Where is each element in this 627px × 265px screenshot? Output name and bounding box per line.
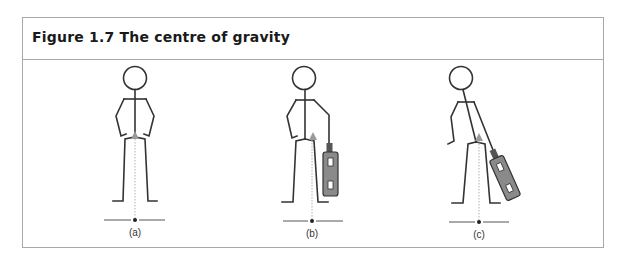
centre-of-gravity-illustration: [0, 0, 627, 265]
cog-marker-icon: [475, 133, 483, 141]
panel-c-stick-figure: [448, 67, 500, 204]
right-arm: [314, 100, 329, 143]
right-arm: [144, 99, 154, 136]
head: [124, 67, 147, 90]
left-leg: [113, 137, 135, 201]
cog-marker-icon: [309, 132, 317, 140]
cog-marker-icon: [131, 131, 139, 139]
panel-b-case: [323, 143, 338, 196]
panel-c-case: [486, 147, 521, 202]
panel-label-c: (c): [473, 229, 485, 240]
right-leg: [135, 137, 157, 201]
cog-point: [477, 220, 481, 224]
left-leg: [452, 142, 476, 203]
left-leg: [282, 139, 305, 202]
cog-point: [310, 219, 314, 223]
left-arm: [287, 100, 297, 138]
head: [450, 67, 473, 90]
left-arm: [116, 99, 126, 136]
head: [293, 67, 316, 90]
spine: [463, 90, 476, 143]
left-arm: [448, 102, 458, 144]
briefcase: [489, 155, 521, 201]
panel-label-b: (b): [306, 228, 318, 239]
panel-label-a: (a): [129, 227, 141, 238]
cog-point: [133, 218, 137, 222]
case-clasp: [328, 181, 333, 189]
case-clasp: [328, 158, 333, 166]
panel-a-cog: [104, 131, 165, 222]
panel-b-stick-figure: [282, 67, 329, 203]
